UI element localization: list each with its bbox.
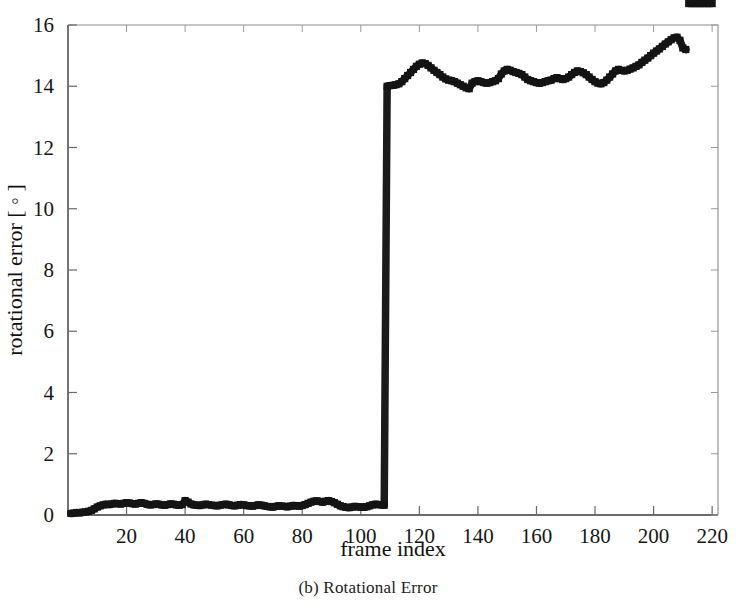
plot-frame <box>68 25 718 515</box>
chart-plot-area: 0246810121416204060801001201401601802002… <box>0 0 736 570</box>
figure-container: 0246810121416204060801001201401601802002… <box>0 0 736 611</box>
y-tick-label: 10 <box>33 197 54 221</box>
y-tick-label: 8 <box>44 258 55 282</box>
x-tick-label: 140 <box>462 524 494 548</box>
x-tick-label: 180 <box>579 524 611 548</box>
series-marker <box>682 46 689 53</box>
rotational-error-chart: 0246810121416204060801001201401601802002… <box>0 0 736 570</box>
figure-caption: (b) Rotational Error <box>0 578 736 598</box>
series-marker <box>709 0 716 7</box>
axis-tick-labels: 0246810121416204060801001201401601802002… <box>33 13 728 548</box>
x-axis-title: frame index <box>340 536 446 561</box>
y-tick-label: 0 <box>44 503 55 527</box>
y-tick-label: 4 <box>44 381 55 405</box>
x-tick-label: 60 <box>233 524 254 548</box>
y-axis-title: rotational error [ ◦ ] <box>2 184 27 356</box>
y-tick-label: 2 <box>44 442 55 466</box>
axis-ticks <box>68 25 718 515</box>
y-tick-label: 6 <box>44 319 55 343</box>
y-tick-label: 16 <box>33 13 54 37</box>
x-tick-label: 80 <box>292 524 313 548</box>
x-tick-label: 220 <box>696 524 728 548</box>
x-tick-label: 160 <box>521 524 553 548</box>
series-line <box>71 37 686 513</box>
x-tick-label: 20 <box>116 524 137 548</box>
x-tick-label: 40 <box>175 524 196 548</box>
series-marker <box>381 502 388 509</box>
x-tick-label: 200 <box>638 524 670 548</box>
series-marker <box>676 37 683 44</box>
y-tick-label: 12 <box>33 136 54 160</box>
y-tick-label: 14 <box>33 74 55 98</box>
data-series <box>67 0 715 517</box>
